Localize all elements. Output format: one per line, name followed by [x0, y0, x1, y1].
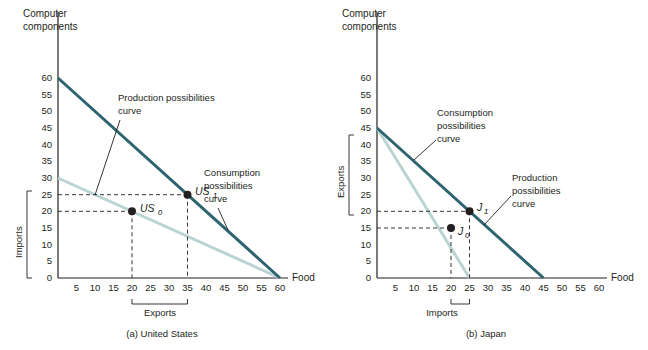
japan-x-tick-40: 40: [520, 282, 531, 293]
japan-y-tick-5: 5: [366, 255, 371, 266]
j1-point-label: J: [476, 201, 483, 213]
panel-united-states: Computer components Food 0 5 10 15 20 25…: [0, 0, 324, 350]
japan-y-tick-30: 30: [360, 172, 371, 183]
japan-panel-caption: (b) Japan: [466, 328, 506, 339]
japan-y-tick-25: 25: [360, 189, 371, 200]
us-x-tick-5: 5: [74, 282, 79, 293]
figure-root: Computer components Food 0 5 10 15 20 25…: [0, 0, 648, 350]
japan-x-axis-title: Food: [611, 272, 634, 283]
japan-imports-label: Imports: [426, 307, 458, 318]
us-consumption-possibilities-curve: [58, 78, 280, 278]
j1-data-point: [466, 207, 474, 215]
japan-consumption-annot-line2: possibilities: [437, 120, 486, 131]
us-y-tick-35: 35: [41, 155, 52, 166]
japan-x-tick-50: 50: [557, 282, 568, 293]
us-y-tick-55: 55: [41, 89, 52, 100]
japan-x-tick-10: 10: [409, 282, 420, 293]
us-x-tick-45: 45: [219, 282, 230, 293]
japan-production-annot-line2: possibilities: [512, 185, 561, 196]
japan-x-tick-30: 30: [483, 282, 494, 293]
japan-y-tick-60: 60: [360, 72, 371, 83]
us-y-tick-60: 60: [41, 72, 52, 83]
japan-y-tick-40: 40: [360, 139, 371, 150]
us-y-tick-15: 15: [41, 222, 52, 233]
us-consumption-annot-line1: Consumption: [204, 167, 260, 178]
japan-consumption-annot-leader: [414, 140, 436, 160]
us-y-tick-30: 30: [41, 172, 52, 183]
japan-imports-bracket: [451, 299, 470, 304]
japan-x-tick-35: 35: [501, 282, 512, 293]
us-x-tick-10: 10: [90, 282, 101, 293]
us-panel-caption: (a) United States: [126, 328, 198, 339]
japan-consumption-annot-line3: curve: [437, 133, 460, 144]
japan-production-annot-line3: curve: [512, 198, 535, 209]
japan-y-axis-title-line2: components: [342, 21, 396, 32]
us-y-tick-20: 20: [41, 205, 52, 216]
japan-y-tick-0: 0: [366, 272, 371, 283]
us-exports-label: Exports: [144, 307, 176, 318]
j0-point-label: J: [457, 225, 464, 237]
us-imports-bracket: [27, 191, 32, 278]
japan-consumption-annot-line1: Consumption: [437, 107, 493, 118]
japan-production-possibilities-curve: [377, 128, 470, 278]
us-production-annot-line1: Production possibilities: [118, 92, 215, 103]
japan-y-tick-20: 20: [360, 205, 371, 216]
us-production-annot-line2: curve: [118, 105, 141, 116]
us-x-axis-title: Food: [292, 272, 315, 283]
us0-data-point: [128, 207, 136, 215]
us-consumption-annot-line2: possibilities: [204, 180, 253, 191]
japan-y-tick-15: 15: [360, 222, 371, 233]
j1-point-sublabel: 1: [484, 207, 488, 216]
j0-data-point: [447, 224, 455, 232]
us0-point-label: US: [140, 202, 155, 214]
us-production-annot-leader: [95, 120, 120, 195]
japan-production-annot-line1: Production: [512, 172, 557, 183]
us-y-tick-5: 5: [47, 255, 52, 266]
us-y-axis-title-line1: Computer: [23, 8, 68, 19]
us0-point-sublabel: 0: [158, 208, 163, 217]
us-x-tick-40: 40: [201, 282, 212, 293]
us1-data-point: [184, 191, 192, 199]
us-x-tick-60: 60: [275, 282, 286, 293]
japan-x-tick-20: 20: [446, 282, 457, 293]
us-x-tick-15: 15: [108, 282, 119, 293]
us-x-tick-35: 35: [182, 282, 193, 293]
us-production-possibilities-curve: [58, 178, 280, 278]
us-x-tick-25: 25: [145, 282, 156, 293]
japan-y-tick-45: 45: [360, 122, 371, 133]
japan-y-tick-35: 35: [360, 155, 371, 166]
japan-y-axis-title-line1: Computer: [342, 8, 387, 19]
japan-x-tick-5: 5: [393, 282, 398, 293]
japan-x-tick-55: 55: [575, 282, 586, 293]
us-y-axis-title-line2: components: [23, 21, 77, 32]
us-x-tick-20: 20: [127, 282, 138, 293]
japan-x-tick-25: 25: [464, 282, 475, 293]
japan-chart-svg: Computer components Food 0 5 10 15 20 25…: [324, 0, 648, 350]
panel-japan: Computer components Food 0 5 10 15 20 25…: [324, 0, 648, 350]
us-x-tick-55: 55: [256, 282, 267, 293]
japan-exports-bracket: [349, 135, 354, 215]
japan-y-tick-50: 50: [360, 105, 371, 116]
japan-y-tick-55: 55: [360, 89, 371, 100]
us-x-tick-30: 30: [164, 282, 175, 293]
us-y-tick-40: 40: [41, 139, 52, 150]
japan-x-tick-45: 45: [538, 282, 549, 293]
japan-y-tick-10: 10: [360, 239, 371, 250]
japan-x-tick-15: 15: [427, 282, 438, 293]
us-chart-svg: Computer components Food 0 5 10 15 20 25…: [0, 0, 324, 350]
japan-x-tick-60: 60: [594, 282, 605, 293]
us-y-tick-45: 45: [41, 122, 52, 133]
us-x-tick-50: 50: [238, 282, 249, 293]
japan-exports-label: Exports: [335, 166, 346, 198]
us-exports-bracket: [132, 299, 188, 304]
us-y-tick-50: 50: [41, 105, 52, 116]
us-imports-label: Imports: [13, 226, 24, 258]
us-y-tick-0: 0: [47, 272, 52, 283]
us-y-tick-25: 25: [41, 189, 52, 200]
us-y-tick-10: 10: [41, 239, 52, 250]
us-consumption-annot-line3: curve: [204, 193, 227, 204]
